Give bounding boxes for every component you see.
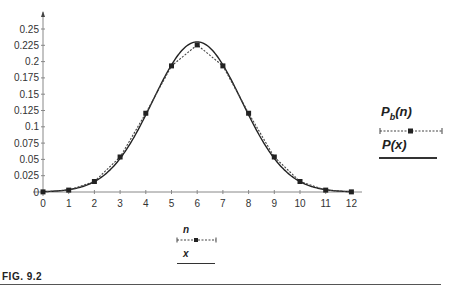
binomial-marker xyxy=(272,154,277,159)
legend-n-symbol xyxy=(176,236,218,244)
gaussian-curve xyxy=(43,42,351,192)
legend-pb-symbol xyxy=(378,126,444,136)
x-tick-label: 10 xyxy=(294,198,306,209)
y-tick-label: 0.025 xyxy=(14,170,39,181)
y-tick-label: 0 xyxy=(33,187,39,198)
x-tick-label: 6 xyxy=(194,198,200,209)
binomial-marker xyxy=(66,188,71,193)
y-tick-label: 0.05 xyxy=(20,154,40,165)
y-tick-label: 0.1 xyxy=(25,121,39,132)
binomial-marker xyxy=(298,179,303,184)
x-tick-label: 8 xyxy=(246,198,252,209)
x-tick-label: 3 xyxy=(117,198,123,209)
legend-x-label: x xyxy=(183,248,189,259)
y-tick-label: 0.175 xyxy=(14,72,39,83)
binomial-marker xyxy=(92,179,97,184)
legend-n-label: n xyxy=(183,224,189,235)
y-tick-label: 0.075 xyxy=(14,138,39,149)
binomial-marker xyxy=(195,42,200,47)
binomial-marker xyxy=(41,189,46,194)
binomial-marker xyxy=(323,188,328,193)
binomial-marker xyxy=(246,111,251,116)
legend-pb-label: Pb(n) xyxy=(381,104,412,122)
caption-rule xyxy=(0,284,441,285)
binomial-marker xyxy=(169,63,174,68)
legend-p-symbol xyxy=(379,157,437,159)
x-tick-label: 4 xyxy=(143,198,149,209)
x-tick-label: 2 xyxy=(92,198,98,209)
binomial-marker xyxy=(143,111,148,116)
binomial-line xyxy=(43,45,351,192)
binomial-marker xyxy=(118,154,123,159)
x-tick-label: 11 xyxy=(321,198,332,209)
x-tick-label: 7 xyxy=(220,198,226,209)
y-tick-label: 0.225 xyxy=(14,40,39,51)
x-tick-label: 5 xyxy=(169,198,175,209)
x-tick-label: 0 xyxy=(40,198,46,209)
y-tick-label: 0.125 xyxy=(14,105,39,116)
x-tick-label: 12 xyxy=(346,198,358,209)
binomial-marker xyxy=(349,189,354,194)
x-tick-label: 1 xyxy=(66,198,72,209)
x-tick-label: 9 xyxy=(272,198,278,209)
legend-x-symbol xyxy=(177,263,215,264)
y-tick-label: 0.25 xyxy=(20,24,40,35)
figure-caption: FIG. 9.2 xyxy=(2,271,42,282)
legend-p-label: P(x) xyxy=(382,137,407,152)
binomial-marker xyxy=(220,63,225,68)
y-tick-label: 0.2 xyxy=(25,56,39,67)
y-tick-label: 0.15 xyxy=(20,89,40,100)
y-axis-arrow-icon xyxy=(41,11,45,17)
